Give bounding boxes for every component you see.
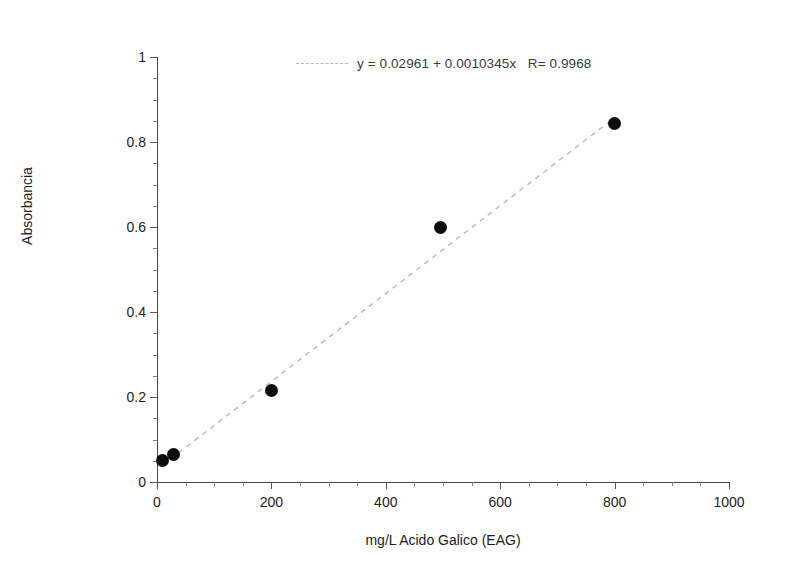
x-tick-mark [386,482,387,489]
x-tick-mark [500,482,501,489]
x-minor-tick-mark [186,482,187,486]
x-minor-tick-mark [243,482,244,486]
x-minor-tick-mark [557,482,558,486]
legend-line-swatch [296,63,348,64]
y-tick-label: 0.2 [127,389,146,405]
x-tick-mark [729,482,730,489]
x-tick-label: 600 [489,494,512,510]
x-tick-mark [271,482,272,489]
x-tick-label: 0 [153,494,161,510]
data-point [265,384,278,397]
x-minor-tick-mark [214,482,215,486]
x-axis-title: mg/L Acido Galico (EAG) [157,532,729,548]
plot-area: 00.20.40.60.81 02004006008001000 [157,57,729,482]
data-point [167,448,180,461]
x-minor-tick-mark [700,482,701,486]
x-minor-tick-mark [357,482,358,486]
y-tick-label: 1 [138,49,146,65]
x-tick-label: 400 [374,494,397,510]
y-tick-label: 0 [138,474,146,490]
x-minor-tick-mark [414,482,415,486]
x-minor-tick-mark [329,482,330,486]
y-tick-label: 0.8 [127,134,146,150]
y-tick-mark [150,482,157,483]
x-tick-label: 1000 [713,494,744,510]
legend: y = 0.02961 + 0.0010345x R= 0.9968 [296,56,591,71]
x-minor-tick-mark [300,482,301,486]
x-minor-tick-mark [529,482,530,486]
x-tick-mark [615,482,616,489]
y-tick-mark [150,312,157,313]
y-tick-label: 0.4 [127,304,146,320]
x-tick-label: 800 [603,494,626,510]
data-point [608,117,621,130]
y-tick-mark [150,227,157,228]
y-axis-title: Absorbancia [19,146,35,266]
chart-figure: 00.20.40.60.81 02004006008001000 y = 0.0… [0,0,791,585]
x-minor-tick-mark [643,482,644,486]
y-tick-label: 0.6 [127,219,146,235]
x-tick-label: 200 [260,494,283,510]
x-minor-tick-mark [443,482,444,486]
fit-equation-label: y = 0.02961 + 0.0010345x R= 0.9968 [357,56,591,71]
x-minor-tick-mark [672,482,673,486]
x-minor-tick-mark [586,482,587,486]
x-tick-mark [157,482,158,489]
data-points-layer [157,57,729,482]
x-minor-tick-mark [472,482,473,486]
y-tick-mark [150,142,157,143]
y-tick-mark [150,397,157,398]
data-point [434,221,447,234]
y-tick-mark [150,57,157,58]
